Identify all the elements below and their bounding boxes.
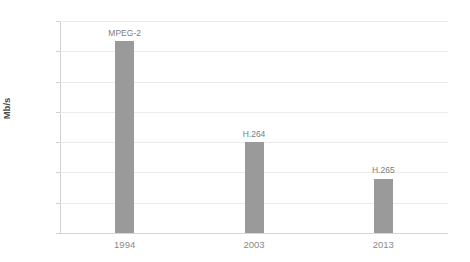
bar-chart: 14 12 10 8 6 4 2 0 Mb/s MPEG-2 H.264 H.2…: [0, 0, 470, 262]
bar-label-mpeg-2: MPEG-2: [108, 28, 141, 38]
bar-label-h264: H.264: [243, 129, 266, 139]
x-tick-label-2003: 2003: [243, 239, 264, 250]
bar-1994[interactable]: [115, 41, 134, 233]
gridline-14: [60, 21, 448, 22]
bar-2013[interactable]: [374, 179, 393, 234]
plot-area: [60, 21, 448, 233]
x-tick-label-2013: 2013: [373, 239, 394, 250]
bar-label-h265: H.265: [372, 165, 395, 175]
x-tick-label-1994: 1994: [114, 239, 135, 250]
gridline-0-baseline: [60, 233, 448, 234]
bar-2003[interactable]: [245, 142, 264, 233]
y-axis-title: Mb/s: [1, 98, 12, 120]
